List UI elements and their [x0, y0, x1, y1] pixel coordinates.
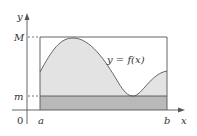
y-axis-arrow-icon [25, 13, 30, 20]
x-axis-arrow-icon [178, 108, 185, 113]
b-label: b [164, 115, 170, 126]
m-label: m [14, 91, 23, 102]
y-axis-label: y [16, 11, 23, 22]
M-label: M [13, 32, 25, 43]
integral-bounds-diagram: y x 0 M m a b y = f(x) [0, 0, 197, 136]
min-rectangle [40, 96, 167, 110]
x-axis-label: x [181, 115, 187, 126]
origin-label: 0 [17, 115, 23, 126]
curve-label: y = f(x) [106, 54, 145, 65]
a-label: a [38, 115, 44, 126]
